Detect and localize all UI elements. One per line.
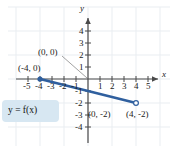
y-axis xyxy=(85,18,91,143)
y-tick-label-4: 4 xyxy=(79,27,84,36)
open-endpoint-marker xyxy=(134,101,139,106)
y-tick-label-neg4: -4 xyxy=(75,123,83,132)
x-axis-label: x xyxy=(162,70,166,79)
y-tick-label-2: 2 xyxy=(79,51,84,60)
x-tick-label-3: 3 xyxy=(122,82,127,91)
grid-lines xyxy=(8,7,170,146)
x-tick-label-neg5: -5 xyxy=(23,82,31,91)
graph-figure: y x -5 -4 -3 -2 -1 1 2 3 4 5 4 3 2 1 -1 … xyxy=(0,0,174,151)
x-tick-label-4: 4 xyxy=(134,82,139,91)
left-endpoint-label: (-4, 0) xyxy=(18,64,41,73)
coordinate-plane xyxy=(0,0,174,151)
y-tick-label-neg2: -2 xyxy=(75,99,83,108)
origin-point-label: (0, 0) xyxy=(38,48,58,57)
y-axis-label: y xyxy=(80,4,84,13)
x-tick-label-neg4: -4 xyxy=(35,82,43,91)
y-tick-label-neg3: -3 xyxy=(75,111,83,120)
x-tick-label-neg2: -2 xyxy=(59,82,67,91)
x-tick-label-1: 1 xyxy=(98,82,103,91)
x-tick-label-neg3: -3 xyxy=(47,82,55,91)
x-tick-label-2: 2 xyxy=(110,82,115,91)
y-intercept-label: (0, -2) xyxy=(88,110,111,119)
y-tick-label-1: 1 xyxy=(79,63,84,72)
y-tick-label-neg1: -1 xyxy=(75,87,83,96)
right-endpoint-label: (4, -2) xyxy=(126,110,149,119)
x-tick-label-5: 5 xyxy=(146,82,151,91)
y-tick-label-3: 3 xyxy=(79,39,84,48)
function-label: y = f(x) xyxy=(8,105,37,115)
